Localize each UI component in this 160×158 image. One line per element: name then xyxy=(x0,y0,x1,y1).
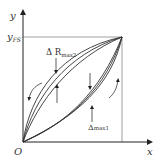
y-axis-label: y xyxy=(9,10,16,21)
unloading-direction-arrow xyxy=(109,80,118,98)
delta-max1-label: Δmax1 xyxy=(88,123,109,132)
full-scale-label: yFS xyxy=(6,31,21,43)
hysteresis-diagram: y x O yFS Δ Rmax2 Δmax1 xyxy=(0,0,160,158)
origin-label: O xyxy=(14,146,22,157)
x-axis-label: x xyxy=(147,146,153,157)
loading-direction-arrow xyxy=(29,83,42,99)
delta-r-max2-label: Δ Rmax2 xyxy=(46,47,76,58)
